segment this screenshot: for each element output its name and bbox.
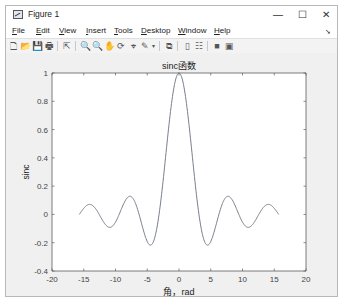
menu-window-mnemonic: W bbox=[178, 26, 186, 35]
menu-view-label: iew bbox=[64, 26, 76, 35]
maximize-button[interactable]: ☐ bbox=[295, 8, 309, 21]
minimize-button[interactable]: — bbox=[271, 8, 285, 21]
x-tick-label: 0 bbox=[177, 275, 182, 284]
menu-help-label: elp bbox=[220, 26, 231, 35]
y-tick-label: 1 bbox=[44, 69, 49, 78]
data-cursor-icon[interactable]: ⌖ bbox=[128, 41, 138, 51]
menu-file[interactable]: File bbox=[12, 26, 25, 35]
menu-insert-label: nsert bbox=[88, 26, 106, 35]
close-button[interactable]: ✕ bbox=[319, 8, 333, 21]
insert-colorbar-icon[interactable]: ▯ bbox=[182, 41, 192, 51]
y-tick-label: 0.6 bbox=[37, 126, 49, 135]
open-file-icon[interactable]: 📂 bbox=[20, 41, 30, 51]
x-tick-label: -20 bbox=[46, 275, 58, 284]
figure-toolbar: 🗋 📂 💾 🖶 ⇱ 🔍 🔍 ✋ ⟳ ⌖ ✎ ▾ ⧉ ▯ ☷ ■ ▣ bbox=[6, 38, 337, 54]
zoom-in-icon[interactable]: 🔍 bbox=[80, 41, 90, 51]
toolbar-separator bbox=[177, 41, 178, 51]
window-title: Figure 1 bbox=[28, 9, 59, 19]
menu-desktop-label: esktop bbox=[147, 26, 171, 35]
y-tick-label: -0.2 bbox=[34, 239, 48, 248]
link-plot-icon[interactable]: ⧉ bbox=[164, 41, 174, 51]
menu-insert[interactable]: Insert bbox=[86, 26, 106, 35]
rotate-3d-icon[interactable]: ⟳ bbox=[116, 41, 126, 51]
figure-canvas: -20-15-10-505101520 -0.4-0.200.20.40.60.… bbox=[6, 53, 337, 296]
menu-overflow-icon[interactable]: ➘ bbox=[325, 28, 331, 36]
axes-background bbox=[52, 73, 306, 271]
zoom-out-icon[interactable]: 🔍 bbox=[92, 41, 102, 51]
x-tick-label: 10 bbox=[238, 275, 247, 284]
x-tick-label: -15 bbox=[78, 275, 90, 284]
hide-plot-tools-icon[interactable]: ■ bbox=[212, 41, 222, 51]
brush-icon[interactable]: ✎ bbox=[140, 41, 150, 51]
y-tick-label: 0 bbox=[44, 210, 49, 219]
menu-file-label: ile bbox=[17, 26, 25, 35]
sinc-plot[interactable]: -20-15-10-505101520 -0.4-0.200.20.40.60.… bbox=[6, 53, 339, 298]
y-tick-label: -0.4 bbox=[34, 267, 48, 276]
matlab-figure-icon bbox=[13, 10, 23, 19]
toolbar-separator bbox=[159, 41, 160, 51]
toolbar-separator bbox=[75, 41, 76, 51]
print-icon[interactable]: 🖶 bbox=[44, 41, 54, 51]
menu-edit[interactable]: Edit bbox=[36, 26, 50, 35]
menu-help[interactable]: Help bbox=[214, 26, 230, 35]
x-tick-label: -10 bbox=[110, 275, 122, 284]
menu-window[interactable]: Window bbox=[178, 26, 206, 35]
x-axis-label: 角，rad bbox=[163, 286, 194, 297]
toolbar-separator bbox=[57, 41, 58, 51]
new-figure-icon[interactable]: 🗋 bbox=[8, 41, 18, 51]
show-plot-tools-icon[interactable]: ▣ bbox=[224, 41, 234, 51]
brush-dropdown-icon[interactable]: ▾ bbox=[150, 41, 156, 51]
y-tick-label: 0.4 bbox=[37, 154, 49, 163]
y-axis-label: sinc bbox=[21, 164, 31, 180]
toolbar-separator bbox=[207, 41, 208, 51]
menu-tools-label: ools bbox=[118, 26, 133, 35]
pan-icon[interactable]: ✋ bbox=[104, 41, 114, 51]
menu-edit-label: dit bbox=[41, 26, 49, 35]
x-tick-label: -5 bbox=[144, 275, 152, 284]
menu-desktop[interactable]: Desktop bbox=[141, 26, 170, 35]
title-bar[interactable]: Figure 1 — ☐ ✕ bbox=[6, 6, 337, 24]
edit-plot-icon[interactable]: ⇱ bbox=[62, 41, 72, 51]
y-tick-label: 0.2 bbox=[37, 182, 49, 191]
x-tick-label: 15 bbox=[270, 275, 279, 284]
menu-view[interactable]: View bbox=[59, 26, 76, 35]
x-tick-label: 5 bbox=[209, 275, 214, 284]
chart-title: sinc函数 bbox=[162, 60, 196, 71]
figure-window: Figure 1 — ☐ ✕ File Edit View Insert Too… bbox=[5, 5, 338, 297]
menu-bar: File Edit View Insert Tools Desktop Wind… bbox=[6, 24, 337, 38]
menu-tools[interactable]: Tools bbox=[114, 26, 133, 35]
insert-legend-icon[interactable]: ☷ bbox=[194, 41, 204, 51]
save-icon[interactable]: 💾 bbox=[32, 41, 42, 51]
y-tick-label: 0.8 bbox=[37, 97, 49, 106]
menu-window-label: indow bbox=[186, 26, 207, 35]
x-tick-label: 20 bbox=[302, 275, 311, 284]
